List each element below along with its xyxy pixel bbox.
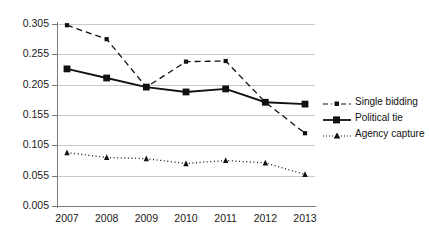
series-line: [67, 69, 305, 104]
data-point-marker: [104, 154, 109, 160]
chart-legend: Single bidding Political tie Agency capt…: [322, 94, 429, 142]
data-point-marker: [303, 131, 307, 135]
y-tick-mark: [52, 24, 57, 25]
data-point-marker: [223, 157, 228, 163]
data-point-marker: [262, 99, 269, 106]
legend-item-single-bidding: Single bidding: [322, 94, 429, 110]
data-point-marker: [64, 65, 71, 72]
data-point-marker: [222, 86, 229, 93]
data-point-marker: [143, 84, 150, 91]
y-tick-mark: [52, 115, 57, 116]
data-point-marker: [144, 155, 149, 161]
data-point-marker: [302, 101, 309, 108]
legend-label-agency-capture: Agency capture: [352, 128, 425, 140]
y-tick-mark: [52, 176, 57, 177]
legend-swatch-single-bidding: [322, 96, 352, 108]
y-tick-mark: [52, 206, 57, 207]
legend-label-political-tie: Political tie: [352, 112, 403, 124]
series-line: [67, 25, 305, 133]
legend-item-political-tie: Political tie: [322, 110, 429, 126]
data-point-marker: [105, 37, 109, 41]
data-point-marker: [64, 149, 69, 155]
line-chart: 0.0050.0550.1050.1550.2050.2550.305 2007…: [0, 0, 429, 238]
data-point-marker: [224, 59, 228, 63]
data-point-marker: [183, 89, 190, 96]
legend-swatch-political-tie: [322, 112, 352, 124]
legend-label-single-bidding: Single bidding: [352, 96, 418, 108]
data-point-marker: [263, 160, 268, 166]
data-point-marker: [183, 160, 188, 166]
legend-swatch-agency-capture: [322, 128, 352, 140]
y-tick-mark: [52, 145, 57, 146]
y-tick-mark: [52, 85, 57, 86]
y-tick-mark: [52, 54, 57, 55]
data-point-marker: [65, 23, 69, 27]
legend-item-agency-capture: Agency capture: [322, 126, 429, 142]
data-point-marker: [103, 75, 110, 82]
data-point-marker: [184, 60, 188, 64]
